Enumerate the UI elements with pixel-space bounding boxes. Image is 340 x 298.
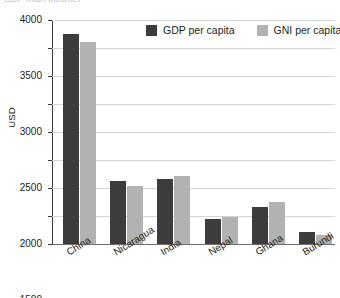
bar[interactable]	[110, 181, 126, 244]
legend-item[interactable]: GNI per capita	[257, 24, 340, 36]
bar-chart: GDP (high income) USD 050010001500200025…	[0, 0, 340, 298]
y-axis-tick: 3000	[48, 76, 52, 77]
y-axis-tick-label: 2500	[20, 183, 42, 193]
bar[interactable]	[80, 42, 96, 244]
bar-group	[252, 20, 285, 244]
bar-group	[299, 20, 332, 244]
bar-group	[157, 20, 190, 244]
y-axis-tick: 2500	[48, 104, 52, 105]
legend-label: GDP per capita	[163, 24, 235, 36]
plot-area: 05001000150020002500300035004000	[52, 20, 335, 244]
bar[interactable]	[63, 34, 79, 244]
bar[interactable]	[252, 207, 268, 244]
y-axis-tick: 1000	[48, 188, 52, 189]
y-axis-tick: 2000	[48, 132, 52, 133]
chart-legend: GDP per capitaGNI per capita	[146, 24, 340, 36]
top-caption: GDP (high income)	[4, 0, 80, 2]
legend-swatch-icon	[146, 25, 157, 36]
bar-group	[63, 20, 96, 244]
y-axis-tick: 4000	[48, 20, 52, 21]
x-axis-line	[52, 244, 335, 245]
bar-group	[110, 20, 143, 244]
y-axis-title: USD	[6, 98, 17, 138]
y-axis-tick-label: 4000	[20, 15, 42, 25]
y-axis-tick: 500	[48, 216, 52, 217]
legend-label: GNI per capita	[274, 24, 340, 36]
y-axis-tick: 0	[48, 244, 52, 245]
bar[interactable]	[174, 176, 190, 244]
y-axis-tick-label: 3500	[20, 71, 42, 81]
y-axis-tick: 1500	[48, 160, 52, 161]
y-axis-tick-label: 2000	[20, 239, 42, 249]
bar[interactable]	[157, 179, 173, 244]
y-axis-tick-label: 3000	[20, 127, 42, 137]
bar-group	[205, 20, 238, 244]
y-axis-tick: 3500	[48, 48, 52, 49]
legend-swatch-icon	[257, 25, 268, 36]
legend-item[interactable]: GDP per capita	[146, 24, 235, 36]
